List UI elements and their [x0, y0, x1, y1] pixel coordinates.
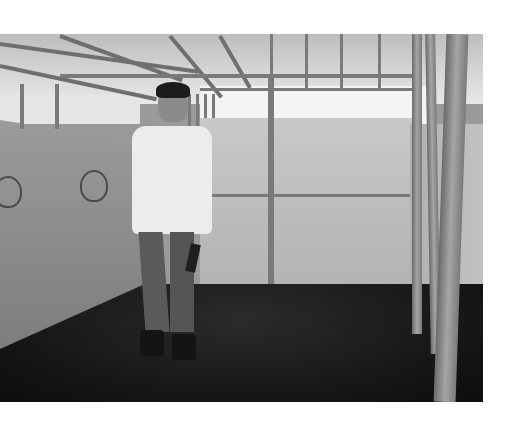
- back-tarp-wall: [200, 118, 420, 288]
- center-bamboo-post: [268, 74, 274, 286]
- wall-crossbar: [200, 194, 420, 197]
- vent-slat: [196, 94, 199, 126]
- white-sweatshirt: [132, 126, 212, 234]
- tarp-logo-icon: [0, 176, 22, 208]
- vent-slat: [188, 94, 191, 126]
- left-shoe: [140, 330, 164, 356]
- tarp-logo-icon: [80, 170, 108, 202]
- left-post: [55, 84, 59, 129]
- roof-beam: [200, 88, 420, 91]
- shelter-photo: [0, 34, 483, 402]
- bamboo-pole: [412, 34, 422, 334]
- roof-beam: [340, 34, 343, 90]
- left-post: [20, 84, 24, 129]
- hair: [156, 82, 190, 98]
- roof-beam: [305, 34, 308, 90]
- roof-beam: [60, 74, 420, 78]
- right-shoe: [172, 334, 196, 360]
- roof-beam: [378, 34, 381, 90]
